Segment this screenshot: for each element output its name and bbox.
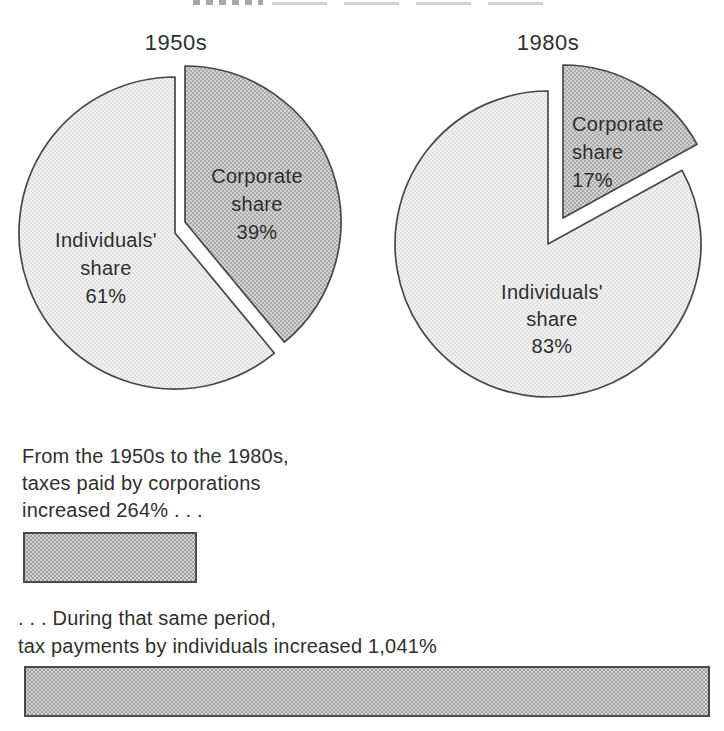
slice-label-line: Corporate [211, 162, 303, 190]
slice-label-individuals-1980s: Individuals' share 83% [501, 279, 603, 360]
individuals-increase-bar [24, 666, 710, 717]
pie-title-1980s: 1980s [517, 30, 579, 56]
corporate-increase-bar [23, 532, 197, 583]
slice-label-line: Individuals' [55, 226, 157, 254]
caption-line: taxes paid by corporations [22, 470, 289, 497]
caption-line: From the 1950s to the 1980s, [22, 443, 289, 470]
corporate-increase-caption: From the 1950s to the 1980s, taxes paid … [22, 443, 289, 524]
slice-label-line: share [501, 306, 603, 333]
slice-label-corporate-1950s: Corporate share 39% [211, 162, 303, 246]
caption-line: . . . During that same period, [18, 604, 437, 632]
slice-label-value: 61% [55, 282, 157, 310]
caption-line: tax payments by individuals increased 1,… [18, 632, 437, 660]
slice-label-line: share [211, 190, 303, 218]
individuals-increase-caption: . . . During that same period, tax payme… [18, 604, 437, 660]
pie-title-1950s: 1950s [145, 30, 207, 56]
slice-label-line: share [572, 138, 664, 166]
slice-label-line: share [55, 254, 157, 282]
figure-canvas: 1950s 1980s Corporate share 39% Individu… [0, 0, 724, 731]
slice-label-line: Individuals' [501, 279, 603, 306]
slice-label-value: 83% [501, 333, 603, 360]
slice-label-value: 39% [211, 218, 303, 246]
slice-label-individuals-1950s: Individuals' share 61% [55, 226, 157, 310]
slice-label-corporate-1980s: Corporate share 17% [572, 110, 664, 194]
slice-label-line: Corporate [572, 110, 664, 138]
slice-label-value: 17% [572, 166, 664, 194]
caption-line: increased 264% . . . [22, 497, 289, 524]
